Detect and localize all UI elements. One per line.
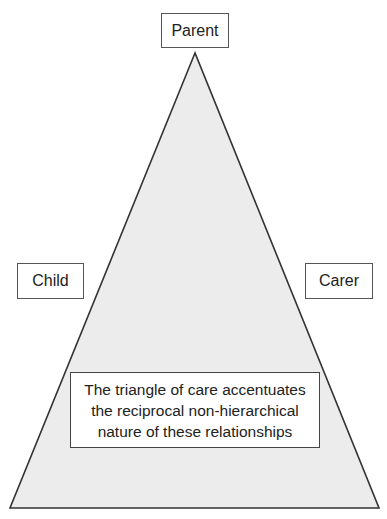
caption-line-2: the reciprocal non-hierarchical: [91, 400, 299, 421]
caption-line-1: The triangle of care accentuates: [84, 379, 305, 400]
caption-line-3: nature of these relationships: [98, 421, 293, 442]
carer-label: Carer: [319, 272, 359, 290]
child-label: Child: [32, 272, 68, 290]
parent-node: Parent: [161, 13, 229, 48]
caption-box: The triangle of care accentuates the rec…: [70, 372, 320, 448]
carer-node: Carer: [305, 263, 373, 299]
parent-label: Parent: [171, 22, 218, 40]
child-node: Child: [17, 263, 84, 299]
